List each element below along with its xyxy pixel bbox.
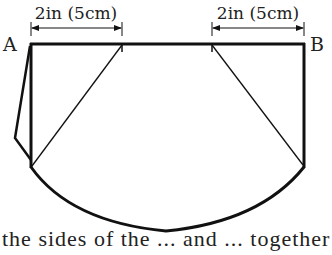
- bottom-curve: [31, 167, 304, 231]
- dimension-label-left: 2in (5cm): [35, 3, 117, 23]
- point-b-label: B: [310, 33, 324, 55]
- diagonal-right: [212, 45, 303, 165]
- diagonal-left: [32, 45, 122, 166]
- caption-partial: the sides of the ... and ... together: [0, 226, 332, 255]
- dimension-arrow-right: [212, 22, 304, 36]
- point-a-label: A: [2, 33, 17, 55]
- left-flap: [15, 46, 31, 160]
- dimension-arrow-left: [31, 22, 122, 36]
- dimension-label-right: 2in (5cm): [217, 3, 299, 23]
